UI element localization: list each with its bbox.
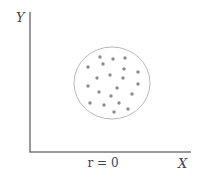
data-point — [108, 73, 111, 76]
data-point — [86, 84, 89, 87]
x-axis-label: X — [177, 156, 188, 171]
data-point — [130, 92, 133, 95]
data-point — [86, 65, 89, 68]
data-point — [111, 57, 114, 60]
data-point — [136, 70, 139, 73]
data-point — [102, 103, 105, 106]
data-point — [136, 82, 139, 85]
data-point — [98, 55, 101, 58]
data-point — [122, 67, 125, 70]
data-point — [121, 76, 124, 79]
data-point — [97, 90, 100, 93]
data-point — [109, 94, 112, 97]
data-points — [86, 55, 139, 113]
scatter-diagram: Y X r = 0 — [0, 0, 207, 181]
data-point — [126, 107, 129, 110]
data-point — [117, 101, 120, 104]
data-point — [101, 62, 104, 65]
data-point — [88, 101, 91, 104]
axes — [29, 12, 191, 152]
correlation-caption: r = 0 — [87, 156, 118, 170]
data-point — [123, 56, 126, 59]
data-point — [115, 86, 118, 89]
y-axis-label: Y — [16, 10, 26, 25]
data-point — [112, 110, 115, 113]
data-point — [95, 76, 98, 79]
